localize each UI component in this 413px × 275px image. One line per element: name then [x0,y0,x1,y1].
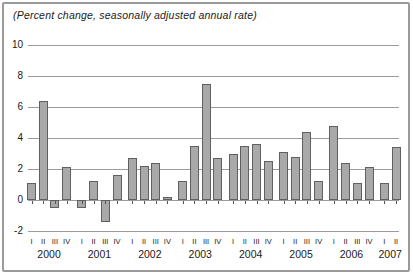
bar-2000-I [27,183,36,200]
bar-2006-IV [365,167,374,200]
bar-2003-II [190,146,199,200]
bar-2003-III [202,84,211,200]
x-axis-tick-2005-IV [319,201,320,204]
bar-2001-IV [113,175,122,200]
x-axis-tick-2003-I [183,201,184,204]
bar-2004-II [240,146,249,200]
quarter-label-2005-IV: IV [311,238,327,246]
y-axis-label-4: 4 [0,133,23,143]
quarterly-percent-change-bar-chart: (Percent change, seasonally adjusted ann… [0,0,413,275]
x-axis-tick-2004-II [245,201,246,204]
x-axis-tick-2000-II [43,201,44,204]
x-axis-tick-2005-I [284,201,285,204]
bar-2000-II [39,101,48,200]
x-axis-tick-2003-IV [218,201,219,204]
bar-2000-IV [62,167,71,200]
quarter-label-2001-IV: IV [109,238,125,246]
quarter-label-2002-IV: IV [159,238,175,246]
bar-2005-III [302,132,311,200]
quarter-label-2004-IV: IV [260,238,276,246]
quarter-label-2007-II: II [388,238,404,246]
quarter-label-2006-IV: IV [361,238,377,246]
bar-2002-III [151,163,160,200]
x-axis-tick-2002-III [156,201,157,204]
year-label-2004: 2004 [231,249,271,260]
x-axis-tick-2001-I [82,201,83,204]
y-axis-label--2: -2 [0,226,23,236]
bar-2001-II [89,181,98,200]
x-axis-tick-2000-III [55,201,56,204]
year-label-2001: 2001 [79,249,119,260]
bar-2005-IV [314,181,323,200]
x-axis-tick-2002-I [132,201,133,204]
year-label-2002: 2002 [130,249,170,260]
gridline-8 [28,76,399,77]
bar-2004-IV [264,161,273,200]
x-axis-tick-2005-II [295,201,296,204]
x-axis-tick-2003-II [194,201,195,204]
x-axis-tick-2006-II [346,201,347,204]
y-axis-label-6: 6 [0,102,23,112]
y-axis-label-10: 10 [0,40,23,50]
year-label-2005: 2005 [281,249,321,260]
x-axis-tick-2005-III [307,201,308,204]
x-axis-tick-2000-I [32,201,33,204]
x-axis-tick-2001-III [105,201,106,204]
bar-2002-I [128,158,137,200]
bar-2003-I [178,181,187,200]
y-axis-label-8: 8 [0,71,23,81]
bar-2003-IV [213,158,222,200]
year-label-2003: 2003 [180,249,220,260]
bar-2005-I [279,152,288,200]
chart-title: (Percent change, seasonally adjusted ann… [13,9,257,21]
bar-2007-II [392,147,401,200]
y-axis-label-2: 2 [0,164,23,174]
x-axis-tick-2002-IV [167,201,168,204]
bar-2004-III [252,144,261,200]
gridline--2 [28,231,399,232]
gridline-6 [28,107,399,108]
bar-2006-I [329,126,338,200]
x-axis-tick-2001-IV [117,201,118,204]
x-axis-tick-2006-IV [369,201,370,204]
x-axis-tick-2003-III [206,201,207,204]
bar-2006-II [341,163,350,200]
y-axis-label-0: 0 [0,195,23,205]
x-axis-tick-2000-IV [67,201,68,204]
x-axis-tick-2007-I [384,201,385,204]
x-axis-tick-2006-III [357,201,358,204]
x-axis-tick-2001-II [94,201,95,204]
bar-2007-I [380,183,389,200]
x-axis-tick-2007-II [396,201,397,204]
gridline-4 [28,138,399,139]
year-label-2007: 2007 [370,249,410,260]
x-axis-tick-2006-I [334,201,335,204]
x-axis-tick-2002-II [144,201,145,204]
year-label-2006: 2006 [331,249,371,260]
bar-2006-III [353,183,362,200]
bar-2004-I [229,154,238,201]
gridline-10 [28,45,399,46]
quarter-label-2003-IV: IV [210,238,226,246]
bar-2005-II [291,157,300,200]
bar-2002-IV [163,197,172,200]
x-axis-tick-2004-IV [268,201,269,204]
x-axis-tick-2004-I [233,201,234,204]
quarter-label-2000-IV: IV [59,238,75,246]
bar-2002-II [140,166,149,200]
year-label-2000: 2000 [29,249,69,260]
x-axis-tick-2004-III [257,201,258,204]
